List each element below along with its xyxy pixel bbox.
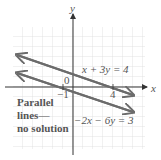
note-line-2: lines— bbox=[17, 110, 49, 121]
note-line-3: no solution bbox=[17, 123, 69, 134]
note-line-1: Parallel bbox=[17, 97, 54, 108]
graph-canvas bbox=[0, 0, 161, 160]
tick-label-neg1: −1 bbox=[57, 89, 69, 100]
equation-1-label: x + 3y = 4 bbox=[82, 64, 129, 75]
y-axis-label: y bbox=[70, 3, 75, 14]
x-axis-label: x bbox=[151, 83, 156, 94]
origin-label: 0 bbox=[64, 75, 70, 86]
tick-label-4: 4 bbox=[110, 89, 116, 100]
equation-2-label: −2x − 6y = 3 bbox=[74, 115, 134, 126]
